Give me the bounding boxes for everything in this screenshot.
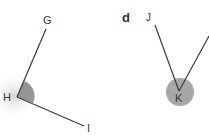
panel-d-label: d [122, 10, 130, 25]
angle-ghi: G H I [0, 14, 90, 134]
angle-diagram: G H I d J K [0, 0, 209, 137]
point-i-label: I [87, 122, 90, 134]
point-g-label: G [43, 14, 52, 26]
angle-jk: J K [146, 12, 209, 112]
point-j-label: J [146, 12, 151, 23]
point-h-label: H [3, 91, 11, 103]
point-k-label: K [175, 92, 183, 104]
